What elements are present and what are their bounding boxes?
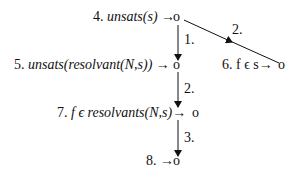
node-8-number: 8. xyxy=(146,153,160,168)
node-6-text: f ϵ s xyxy=(236,57,259,72)
node-8-arrow: → xyxy=(160,153,174,168)
proof-tree-diagram: 4. unsats(s) → o 5. unsats(resolvant(N,s… xyxy=(0,0,296,176)
node-5-text: unsats(resolvant(N,s)) xyxy=(28,57,152,72)
node-5-label: 5. unsats(resolvant(N,s)) → xyxy=(14,57,170,73)
node-6-marker: o xyxy=(278,57,285,73)
node-5-number: 5. xyxy=(14,57,28,72)
node-6-arrow: → xyxy=(259,57,273,72)
node-7-label: 7. f ϵ resolvants(N,s)→ xyxy=(57,105,186,121)
node-7-marker: o xyxy=(192,105,199,121)
node-6-label: 6. f ϵ s→ xyxy=(222,57,273,73)
edges-layer xyxy=(0,0,296,176)
node-4-number: 4. xyxy=(93,9,107,24)
edge-label-7-8: 3. xyxy=(184,130,195,146)
edge-label-5-7: 2. xyxy=(184,81,195,97)
node-4-marker: o xyxy=(173,9,180,25)
edge-label-4-6: 2. xyxy=(232,22,243,38)
node-5-marker: o xyxy=(173,57,180,73)
node-6-number: 6. xyxy=(222,57,236,72)
node-5-arrow: → xyxy=(156,57,170,72)
node-4-label: 4. unsats(s) → xyxy=(93,9,175,25)
edge-label-4-5: 1. xyxy=(184,32,195,48)
node-4-text: unsats(s) xyxy=(107,9,158,24)
node-7-arrow: → xyxy=(172,105,186,120)
node-8-label: 8. → xyxy=(146,153,174,169)
node-8-marker: o xyxy=(173,153,180,169)
node-7-number: 7. xyxy=(57,105,71,120)
node-7-text: f ϵ resolvants(N,s) xyxy=(71,105,172,120)
